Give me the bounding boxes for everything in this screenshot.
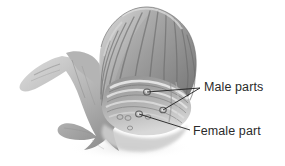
- callout-label-male-parts: Male parts: [204, 81, 263, 94]
- callout-label-female-part: Female part: [193, 125, 261, 138]
- anatomy-figure: Male parts Female part: [0, 0, 285, 166]
